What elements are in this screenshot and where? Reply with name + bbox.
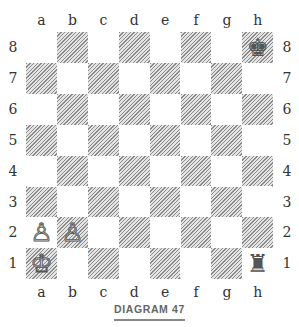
square-a5[interactable] [26,125,57,156]
diagram-caption: DIAGRAM 47 [0,298,299,317]
rank-label-3-right: 3 [280,194,294,210]
square-g6[interactable] [211,94,242,125]
square-a3[interactable] [26,187,57,218]
square-e1[interactable] [150,248,181,279]
square-g1[interactable] [211,248,242,279]
square-f7[interactable] [181,63,212,94]
square-g2[interactable] [211,217,242,248]
rank-label-2-right: 2 [280,224,294,240]
rank-label-8-right: 8 [280,39,294,55]
black-king-icon[interactable]: ♚ [242,32,273,63]
square-c6[interactable] [88,94,119,125]
square-a7[interactable] [26,63,57,94]
file-label-f-top: f [181,12,212,28]
square-d7[interactable] [119,63,150,94]
square-e8[interactable] [150,32,181,63]
square-c5[interactable] [88,125,119,156]
square-a8[interactable] [26,32,57,63]
square-a2[interactable]: ♙ [26,217,57,248]
square-g8[interactable] [211,32,242,63]
square-d5[interactable] [119,125,150,156]
square-d6[interactable] [119,94,150,125]
square-f8[interactable] [181,32,212,63]
square-e5[interactable] [150,125,181,156]
square-h4[interactable] [242,156,273,187]
square-b1[interactable] [57,248,88,279]
file-label-c-top: c [88,12,119,28]
square-f1[interactable] [181,248,212,279]
square-b4[interactable] [57,156,88,187]
rank-label-7-right: 7 [280,70,294,86]
square-g7[interactable] [211,63,242,94]
square-e6[interactable] [150,94,181,125]
square-b6[interactable] [57,94,88,125]
square-e4[interactable] [150,156,181,187]
square-e2[interactable] [150,217,181,248]
square-g4[interactable] [211,156,242,187]
white-pawn-icon[interactable]: ♙ [57,217,88,248]
rank-label-6-right: 6 [280,101,294,117]
file-label-g-top: g [211,12,242,28]
rank-label-4-right: 4 [280,163,294,179]
square-f4[interactable] [181,156,212,187]
file-label-a-top: a [26,12,57,28]
square-c7[interactable] [88,63,119,94]
square-a1[interactable]: ♔ [26,248,57,279]
square-g3[interactable] [211,187,242,218]
square-b8[interactable] [57,32,88,63]
rank-label-1-right: 1 [280,255,294,271]
square-c3[interactable] [88,187,119,218]
square-a6[interactable] [26,94,57,125]
square-c8[interactable] [88,32,119,63]
square-f2[interactable] [181,217,212,248]
white-pawn-icon[interactable]: ♙ [26,217,57,248]
diagram-caption-text: DIAGRAM 47 [114,303,185,321]
square-h6[interactable] [242,94,273,125]
square-f6[interactable] [181,94,212,125]
square-h2[interactable] [242,217,273,248]
square-f3[interactable] [181,187,212,218]
rank-label-4-left: 4 [6,163,20,179]
square-a4[interactable] [26,156,57,187]
square-d2[interactable] [119,217,150,248]
square-b2[interactable]: ♙ [57,217,88,248]
rank-label-7-left: 7 [6,70,20,86]
square-c1[interactable] [88,248,119,279]
black-rook-icon[interactable]: ♜ [242,248,273,279]
square-h5[interactable] [242,125,273,156]
square-b7[interactable] [57,63,88,94]
square-h8[interactable]: ♚ [242,32,273,63]
square-d4[interactable] [119,156,150,187]
rank-label-1-left: 1 [6,255,20,271]
white-king-icon[interactable]: ♔ [26,248,57,279]
square-c4[interactable] [88,156,119,187]
rank-label-8-left: 8 [6,39,20,55]
rank-label-5-left: 5 [6,132,20,148]
chess-board: ♚♙♙♔♜ [26,32,273,279]
rank-label-3-left: 3 [6,194,20,210]
rank-label-5-right: 5 [280,132,294,148]
file-label-b-top: b [57,12,88,28]
square-d1[interactable] [119,248,150,279]
square-c2[interactable] [88,217,119,248]
rank-label-2-left: 2 [6,224,20,240]
square-f5[interactable] [181,125,212,156]
file-label-h-top: h [242,12,273,28]
file-label-e-top: e [150,12,181,28]
rank-label-6-left: 6 [6,101,20,117]
square-h7[interactable] [242,63,273,94]
square-h3[interactable] [242,187,273,218]
square-b5[interactable] [57,125,88,156]
square-e7[interactable] [150,63,181,94]
square-g5[interactable] [211,125,242,156]
square-h1[interactable]: ♜ [242,248,273,279]
square-d8[interactable] [119,32,150,63]
file-label-d-top: d [119,12,150,28]
square-b3[interactable] [57,187,88,218]
square-d3[interactable] [119,187,150,218]
square-e3[interactable] [150,187,181,218]
